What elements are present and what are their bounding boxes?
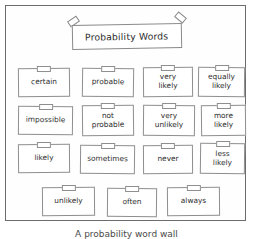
tape-icon — [37, 141, 51, 147]
word-card[interactable]: unlikely — [42, 187, 95, 216]
poster-title-text: Probability Words — [85, 30, 168, 42]
tape-icon — [161, 142, 175, 148]
tape-icon — [101, 142, 115, 148]
probability-word-wall-poster: Probability Words certainprobableverylik… — [5, 5, 246, 221]
tape-icon — [37, 65, 51, 71]
tape-icon-right — [174, 11, 187, 23]
word-card-label: certain — [29, 78, 59, 87]
word-card-label: likely — [32, 154, 55, 163]
figure-caption: A probability word wall — [0, 229, 253, 239]
tape-icon — [216, 102, 230, 108]
word-card[interactable]: never — [143, 145, 193, 174]
word-card[interactable]: notprobable — [82, 105, 134, 137]
tape-icon — [125, 185, 139, 191]
poster-title-card: Probability Words — [72, 23, 182, 50]
word-card-label: often — [120, 198, 143, 207]
word-card-label: veryunlikely — [153, 112, 186, 129]
word-card-label: unlikely — [52, 197, 85, 206]
tape-icon — [161, 64, 175, 70]
word-card[interactable]: likely — [18, 144, 70, 173]
tape-icon — [186, 184, 200, 190]
word-card-label: sometimes — [85, 155, 130, 164]
tape-icon — [101, 65, 115, 71]
word-card-label: equallylikely — [206, 73, 237, 91]
tape-icon — [39, 103, 53, 109]
poster-title-banner: Probability Words — [72, 18, 182, 50]
word-card-label: morelikely — [212, 112, 235, 129]
word-card[interactable]: certain — [18, 68, 70, 98]
tape-icon — [101, 102, 115, 108]
tape-icon — [216, 140, 230, 146]
tape-icon — [215, 64, 229, 70]
word-card[interactable]: equallylikely — [198, 67, 245, 97]
tape-icon — [61, 184, 75, 190]
word-card-label: always — [179, 197, 208, 206]
word-card[interactable]: always — [167, 187, 220, 216]
word-card[interactable]: sometimes — [80, 145, 135, 175]
word-card[interactable]: veryunlikely — [143, 105, 195, 136]
word-card-label: lesslikely — [211, 150, 234, 167]
word-card-label: verylikely — [156, 73, 179, 90]
word-card[interactable]: verylikely — [143, 67, 193, 97]
tape-icon — [162, 102, 176, 108]
word-card-label: notprobable — [90, 112, 127, 130]
word-card[interactable]: often — [107, 188, 157, 218]
word-card[interactable]: probable — [82, 68, 134, 98]
word-card-label: probable — [90, 78, 127, 87]
word-card[interactable]: morelikely — [201, 105, 246, 136]
word-card[interactable]: impossible — [18, 106, 73, 135]
word-card-label: never — [155, 155, 180, 164]
word-card-label: impossible — [24, 116, 68, 125]
word-card[interactable]: lesslikely — [200, 143, 245, 175]
